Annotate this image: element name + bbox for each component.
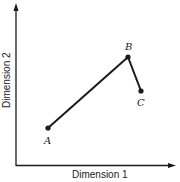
y-axis-arrow-icon [14, 3, 19, 11]
point-b [125, 54, 130, 59]
x-axis-arrow-icon [168, 163, 176, 168]
x-axis [16, 163, 176, 168]
edge-a-b [48, 57, 128, 128]
point-c-label: C [137, 97, 145, 108]
edge-b-c [128, 57, 141, 91]
point-c [138, 88, 143, 93]
point-a [45, 125, 50, 130]
y-axis-label: Dimension 2 [1, 52, 12, 108]
y-axis [14, 3, 19, 166]
x-axis-label: Dimension 1 [72, 169, 128, 180]
point-a-label: A [43, 135, 51, 146]
diagram-canvas: A B C Dimension 1 Dimension 2 [0, 0, 180, 182]
point-b-label: B [124, 41, 132, 52]
